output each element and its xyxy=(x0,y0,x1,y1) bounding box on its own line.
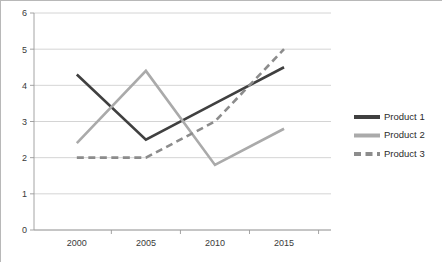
y-tick-label: 6 xyxy=(22,8,27,18)
legend-label-1: Product 1 xyxy=(384,111,425,122)
legend-label-2: Product 2 xyxy=(384,129,425,140)
x-tick-label: 2015 xyxy=(274,238,294,248)
y-tick-label: 5 xyxy=(22,45,27,55)
legend-label-3: Product 3 xyxy=(384,148,425,159)
y-tick-label: 1 xyxy=(22,189,27,199)
chart-figure: 0123456 2000200520102015 Product 1Produc… xyxy=(0,0,442,262)
y-tick-label: 0 xyxy=(22,225,27,235)
y-tick-label: 2 xyxy=(22,153,27,163)
y-tick-label: 4 xyxy=(22,81,27,91)
y-tick-label: 3 xyxy=(22,117,27,127)
x-tick-label: 2005 xyxy=(136,238,156,248)
line-chart: 0123456 2000200520102015 Product 1Produc… xyxy=(1,1,442,262)
x-tick-label: 2000 xyxy=(67,238,87,248)
x-tick-label: 2010 xyxy=(205,238,225,248)
